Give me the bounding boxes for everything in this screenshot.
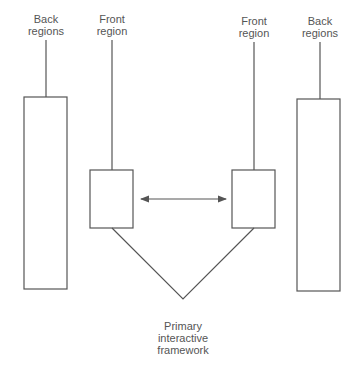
diagram-canvas [0,0,358,369]
primary-framework-v-lines [112,228,254,299]
front-left-region-box [90,170,133,228]
front-right-region-box [232,170,275,228]
label-front-right: Front region [230,15,278,39]
label-primary-framework: Primary interactive framework [143,320,223,356]
back-right-region-box [297,99,340,291]
back-left-region-box [24,97,67,289]
label-back-left: Back regions [26,13,66,37]
label-back-right: Back regions [298,15,342,39]
label-front-left: Front region [88,13,136,37]
